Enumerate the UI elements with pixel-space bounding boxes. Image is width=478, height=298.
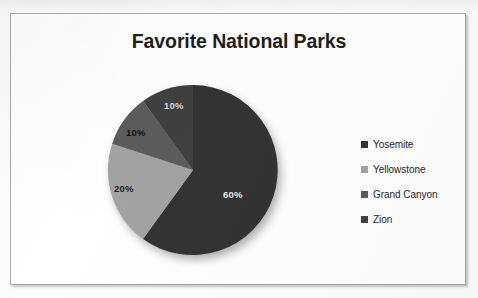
legend-item-yosemite[interactable]: Yosemite <box>361 132 478 157</box>
pie-slices <box>107 84 279 256</box>
legend-item-yellowstone[interactable]: Yellowstone <box>361 157 478 182</box>
chart-legend: Yosemite Yellowstone Grand Canyon Zion <box>361 132 478 232</box>
legend-swatch-icon <box>361 166 368 173</box>
pie-label-grand-canyon: 10% <box>126 127 146 138</box>
legend-swatch-icon <box>361 216 368 223</box>
scan-edge-smudge <box>0 0 478 12</box>
legend-swatch-icon <box>361 191 368 198</box>
chart-frame: Favorite National Parks 60% 20% 10% 10% <box>10 13 466 285</box>
chart-title: Favorite National Parks <box>11 30 467 53</box>
scanned-chart-page: Favorite National Parks 60% 20% 10% 10% <box>0 0 478 298</box>
pie-label-zion: 10% <box>164 100 184 111</box>
pie-label-yellowstone: 20% <box>114 183 134 194</box>
pie-label-yosemite: 60% <box>223 189 243 200</box>
legend-label: Grand Canyon <box>373 189 437 200</box>
legend-label: Yellowstone <box>373 164 425 175</box>
legend-label: Yosemite <box>373 139 413 150</box>
legend-label: Zion <box>373 214 392 225</box>
pie-chart: 60% 20% 10% 10% <box>107 84 279 256</box>
legend-item-grand-canyon[interactable]: Grand Canyon <box>361 182 478 207</box>
legend-item-zion[interactable]: Zion <box>361 207 478 232</box>
legend-swatch-icon <box>361 141 368 148</box>
